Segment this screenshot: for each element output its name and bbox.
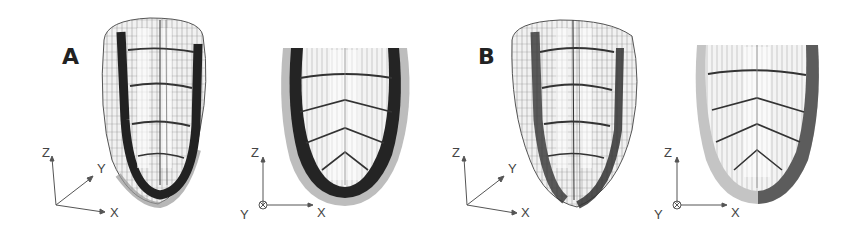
- axis-label-y: Y: [508, 162, 517, 175]
- axis-label-z: Z: [664, 146, 672, 159]
- axis-label-z: Z: [251, 146, 259, 159]
- panel-label-a: A: [62, 44, 79, 69]
- axis-label-z: Z: [42, 146, 50, 159]
- axis-label-y: Y: [654, 208, 663, 221]
- axis-label-z: Z: [452, 146, 460, 159]
- axis-label-x: X: [110, 206, 119, 219]
- figure-canvas: [0, 0, 857, 228]
- panel-b-oblique-heart: [512, 20, 637, 207]
- axis-label-x: X: [521, 206, 530, 219]
- panel-label-b: B: [478, 44, 495, 69]
- panel-a-oblique-heart: [102, 18, 206, 205]
- panel-b-front-heart: [696, 45, 819, 204]
- panel-a-front-heart: [281, 48, 409, 206]
- axis-label-y: Y: [240, 208, 249, 221]
- axis-label-x: X: [731, 206, 740, 219]
- axis-label-y: Y: [97, 162, 106, 175]
- axis-label-x: X: [317, 206, 326, 219]
